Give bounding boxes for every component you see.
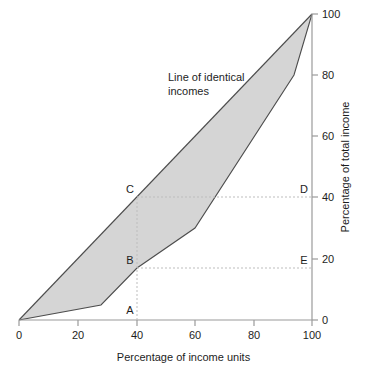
- line-of-identical-incomes: [19, 14, 312, 320]
- x-axis-ticks: [19, 320, 312, 326]
- point-label-c: C: [126, 184, 134, 195]
- x-tick-label-0: 0: [16, 330, 22, 341]
- point-label-a: A: [126, 305, 133, 316]
- x-tick-label-40: 40: [131, 330, 143, 341]
- point-label-e: E: [300, 255, 307, 266]
- y-axis-title: Percentage of total income: [340, 102, 351, 233]
- equality-line-annotation: Line of identical incomes: [168, 70, 278, 98]
- point-label-d: D: [300, 184, 308, 195]
- lorenz-curve-chart: 0 20 40 60 80 100 0 20 40 60 80 100 Perc…: [0, 0, 367, 375]
- y-tick-label-40: 40: [322, 192, 334, 203]
- y-axis-ticks: [312, 14, 318, 320]
- y-tick-label-20: 20: [322, 254, 334, 265]
- x-axis-title: Percentage of income units: [117, 352, 250, 363]
- y-tick-label-100: 100: [322, 9, 340, 20]
- y-tick-label-80: 80: [322, 70, 334, 81]
- x-tick-label-60: 60: [189, 330, 201, 341]
- point-label-b: B: [126, 255, 133, 266]
- y-tick-label-60: 60: [322, 131, 334, 142]
- x-tick-label-20: 20: [72, 330, 84, 341]
- y-tick-label-0: 0: [322, 315, 328, 326]
- chart-plot-area: [0, 0, 367, 375]
- x-tick-label-80: 80: [248, 330, 260, 341]
- x-tick-label-100: 100: [303, 330, 321, 341]
